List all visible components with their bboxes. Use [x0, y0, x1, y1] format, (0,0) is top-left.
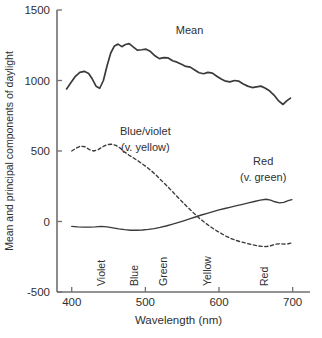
band-label-yellow: Yellow — [201, 256, 213, 286]
y-tick-label: 1000 — [24, 75, 50, 87]
red-label-line1: Red — [253, 155, 273, 167]
x-tick-label: 600 — [209, 296, 228, 308]
band-label-red: Red — [258, 267, 270, 286]
x-tick-label: 400 — [62, 296, 81, 308]
mean-label: Mean — [176, 24, 204, 36]
y-axis-title: Mean and principal components of dayligh… — [3, 51, 15, 251]
band-label-violet: Violet — [95, 260, 107, 286]
y-tick-label: -500 — [27, 286, 50, 298]
band-label-green: Green — [157, 257, 169, 286]
y-tick-label: 0 — [44, 216, 50, 228]
chart-figure: -500050010001500400500600700Wavelength (… — [0, 0, 322, 338]
x-axis-title: Wavelength (nm) — [135, 314, 222, 326]
x-tick-label: 700 — [283, 296, 302, 308]
series-mean-curve — [67, 44, 291, 105]
daylight-spectrum-chart: -500050010001500400500600700Wavelength (… — [0, 0, 322, 338]
blue-violet-label-line2: (v. yellow) — [121, 141, 170, 153]
red-label-line2: (v. green) — [240, 171, 286, 183]
band-label-blue: Blue — [128, 265, 140, 286]
y-tick-label: 500 — [31, 145, 50, 157]
y-tick-label: 1500 — [24, 4, 50, 16]
x-tick-label: 500 — [136, 296, 155, 308]
blue-violet-label-line1: Blue/violet — [120, 125, 171, 137]
series-red-curve — [72, 199, 292, 230]
